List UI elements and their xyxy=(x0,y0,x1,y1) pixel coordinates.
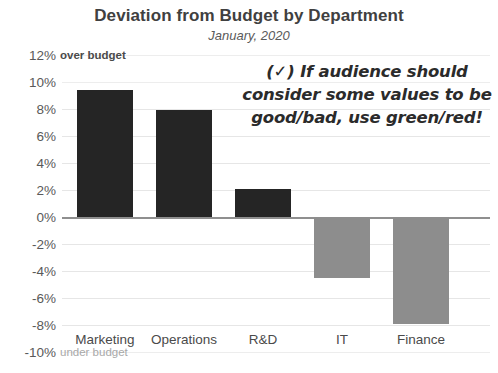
bar-it xyxy=(314,217,370,278)
annotation-line-1: (✓) If audience should xyxy=(238,60,496,83)
bar-r-d xyxy=(235,189,291,217)
annotation-line-3: good/bad, use green/red! xyxy=(238,106,496,129)
chart-title: Deviation from Budget by Department xyxy=(0,5,498,26)
annotation-line-2: consider some values to be xyxy=(238,83,496,106)
bar-finance xyxy=(393,217,449,324)
bar-operations xyxy=(156,110,212,217)
bar-marketing xyxy=(77,90,133,217)
handwritten-annotation: (✓) If audience shouldconsider some valu… xyxy=(238,60,496,129)
chart-subtitle: January, 2020 xyxy=(0,27,498,45)
x-axis-label-finance: Finance xyxy=(371,332,471,347)
chart-header: Deviation from Budget by Department Janu… xyxy=(0,0,498,45)
